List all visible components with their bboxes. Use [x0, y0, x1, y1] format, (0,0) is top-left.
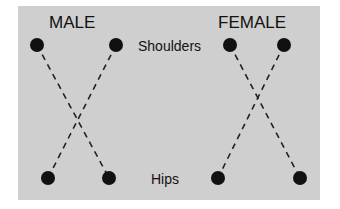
male-right-shoulder-to-left-hip-line: [48, 45, 116, 178]
female-left-hip-dot: [211, 171, 225, 185]
hips-label: Hips: [151, 171, 179, 187]
shoulders-label: Shoulders: [138, 38, 201, 54]
female-label: FEMALE: [218, 13, 286, 32]
female-left-shoulder-to-right-hip-line: [230, 45, 300, 178]
female-left-shoulder-dot: [223, 38, 237, 52]
male-right-shoulder-dot: [109, 38, 123, 52]
male-right-hip-dot: [102, 171, 116, 185]
shoulder-hip-diagram: MALE FEMALE Shoulders Hips: [0, 0, 340, 209]
female-right-shoulder-to-left-hip-line: [218, 45, 284, 178]
male-left-shoulder-to-right-hip-line: [37, 45, 109, 178]
female-right-shoulder-dot: [277, 38, 291, 52]
male-label: MALE: [49, 13, 95, 32]
female-right-hip-dot: [293, 171, 307, 185]
male-left-hip-dot: [41, 171, 55, 185]
male-left-shoulder-dot: [30, 38, 44, 52]
